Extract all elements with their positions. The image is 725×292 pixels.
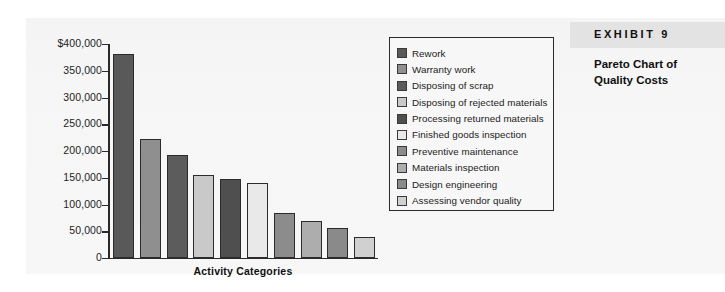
bar — [274, 213, 295, 258]
chart-legend: ReworkWarranty workDisposing of scrapDis… — [389, 37, 554, 211]
legend-item: Warranty work — [397, 61, 547, 77]
legend-color-swatch — [397, 179, 407, 189]
legend-color-swatch — [397, 97, 407, 107]
legend-item-label: Warranty work — [412, 64, 475, 75]
y-axis-tick-mark — [102, 71, 110, 72]
y-axis-tick-mark — [102, 124, 110, 125]
legend-item-label: Assessing vendor quality — [412, 195, 522, 206]
y-axis-tick-mark — [102, 205, 110, 206]
legend-item: Rework — [397, 45, 547, 61]
legend-item: Assessing vendor quality — [397, 193, 547, 209]
legend-item-label: Materials inspection — [412, 162, 500, 173]
legend-color-swatch — [397, 146, 407, 156]
legend-item-label: Processing returned materials — [412, 113, 544, 124]
legend-item-label: Rework — [412, 48, 446, 59]
legend-item: Processing returned materials — [397, 111, 547, 127]
legend-item-label: Design engineering — [412, 179, 497, 190]
bar — [354, 237, 375, 258]
y-axis-tick-label: 250,000 — [40, 117, 102, 129]
y-axis-tick-label: 50,000 — [40, 224, 102, 236]
bar — [113, 54, 134, 258]
y-axis-tick-mark — [102, 98, 110, 99]
exhibit-title: Pareto Chart ofQuality Costs — [594, 56, 718, 88]
exhibit-title-line: Pareto Chart of — [594, 56, 718, 72]
bar — [301, 221, 322, 258]
legend-item-label: Disposing of scrap — [412, 80, 494, 91]
bar — [327, 228, 348, 258]
legend-color-swatch — [397, 163, 407, 173]
legend-item-label: Preventive maintenance — [412, 146, 518, 157]
y-axis-tick-mark — [102, 258, 110, 259]
legend-color-swatch — [397, 48, 407, 58]
y-axis-tick-mark — [102, 231, 110, 232]
legend-item: Design engineering — [397, 176, 547, 192]
bar — [193, 175, 214, 258]
y-axis-tick-label: 150,000 — [40, 171, 102, 183]
legend-item: Disposing of scrap — [397, 78, 547, 94]
legend-color-swatch — [397, 130, 407, 140]
legend-color-swatch — [397, 64, 407, 74]
exhibit-label: EXHIBIT 9 — [594, 28, 670, 40]
legend-item: Materials inspection — [397, 160, 547, 176]
legend-item: Disposing of rejected materials — [397, 94, 547, 110]
exhibit-title-line: Quality Costs — [594, 72, 718, 88]
bar — [247, 183, 268, 258]
bar — [220, 179, 241, 258]
legend-color-swatch — [397, 114, 407, 124]
pareto-chart: $400,000350,000300,000250,000200,000150,… — [40, 30, 385, 275]
bar-series — [110, 44, 378, 258]
y-axis-tick-mark — [102, 178, 110, 179]
legend-item-label: Disposing of rejected materials — [412, 97, 548, 108]
legend-item-label: Finished goods inspection — [412, 129, 527, 140]
bar — [167, 155, 188, 258]
y-axis-tick-label: 200,000 — [40, 144, 102, 156]
y-axis-tick-mark — [102, 44, 110, 45]
y-axis-labels: $400,000350,000300,000250,000200,000150,… — [40, 30, 102, 275]
bar — [140, 139, 161, 258]
y-axis-tick-label: $400,000 — [40, 37, 102, 49]
y-axis-tick-label: 0 — [40, 251, 102, 263]
legend-color-swatch — [397, 196, 407, 206]
y-axis-tick-label: 350,000 — [40, 64, 102, 76]
legend-item: Finished goods inspection — [397, 127, 547, 143]
y-axis-tick-label: 100,000 — [40, 198, 102, 210]
y-axis-tick-mark — [102, 151, 110, 152]
x-axis-title: Activity Categories — [108, 265, 378, 277]
exhibit-figure: $400,000350,000300,000250,000200,000150,… — [0, 0, 725, 292]
legend-color-swatch — [397, 81, 407, 91]
y-axis-tick-label: 300,000 — [40, 91, 102, 103]
legend-item: Preventive maintenance — [397, 143, 547, 159]
